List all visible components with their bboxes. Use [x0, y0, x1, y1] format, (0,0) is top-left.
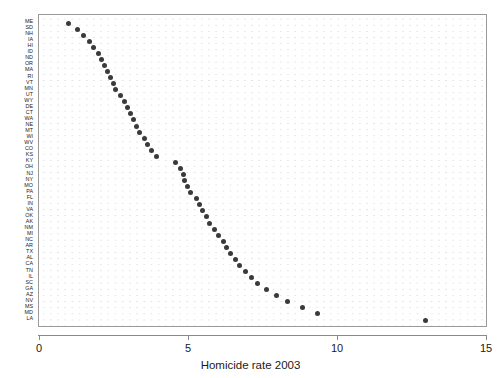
data-point [178, 166, 183, 171]
data-point [96, 51, 101, 56]
data-point [102, 63, 107, 68]
x-axis-tick-label: 0 [36, 342, 42, 354]
homicide-rate-dot-plot: MESDNHIAHIIDNDORMARIVTMNUTWYDECTWANEMTWI… [0, 0, 501, 378]
data-point [75, 27, 80, 32]
x-axis-line [38, 335, 487, 336]
y-axis-category-labels: MESDNHIAHIIDNDORMARIVTMNUTWYDECTWANEMTWI… [0, 14, 36, 327]
data-point [134, 124, 139, 129]
data-point [105, 69, 110, 74]
x-axis-tick-label: 10 [331, 342, 343, 354]
data-point [142, 136, 147, 141]
data-point [233, 257, 238, 262]
x-axis-tick-mark [188, 335, 189, 340]
data-point [87, 39, 92, 44]
grid-dots [39, 15, 486, 326]
data-point [224, 245, 229, 250]
x-axis-tick-label: 5 [185, 342, 191, 354]
data-point [111, 81, 116, 86]
x-axis-tick-mark [486, 335, 487, 340]
data-point [173, 160, 178, 165]
data-point [137, 130, 142, 135]
data-point [91, 45, 96, 50]
data-point [66, 21, 71, 26]
data-point [212, 227, 217, 232]
x-axis-tick-label: 15 [480, 342, 492, 354]
x-axis-title: Homicide rate 2003 [0, 359, 501, 371]
data-point [181, 172, 186, 177]
data-point [154, 154, 159, 159]
data-point [207, 221, 212, 226]
data-point [145, 142, 150, 147]
data-point [221, 239, 226, 244]
data-point [423, 318, 428, 323]
data-point [99, 57, 104, 62]
data-point [216, 233, 221, 238]
plot-area [38, 14, 487, 327]
y-axis-tick-label: LA [26, 316, 33, 321]
data-point [81, 33, 86, 38]
x-axis-tick-mark [39, 335, 40, 340]
x-axis-tick-mark [337, 335, 338, 340]
data-point [108, 75, 113, 80]
